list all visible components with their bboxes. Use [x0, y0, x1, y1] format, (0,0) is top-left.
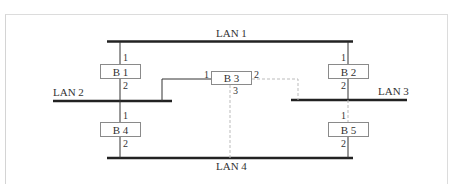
- b1-label: B 1: [113, 66, 129, 78]
- b3-port1-link: [162, 79, 211, 101]
- b3-port2-label: 2: [254, 69, 259, 80]
- lan2-label: LAN 2: [53, 86, 84, 98]
- b3-label: B 3: [224, 72, 240, 84]
- b2-port1-label: 1: [341, 52, 346, 63]
- b1-port1-label: 1: [123, 52, 128, 63]
- b3-port2-link: [252, 79, 298, 100]
- b4-label: B 4: [113, 124, 129, 136]
- b2-label: B 2: [341, 66, 357, 78]
- b3-port3-label: 3: [233, 85, 238, 96]
- b5-port1-label: 1: [341, 110, 346, 121]
- b4-port1-label: 1: [123, 110, 128, 121]
- bridge-b3: B 3 1 2 3: [204, 69, 259, 96]
- b1-port2-label: 2: [123, 80, 128, 91]
- b4-port2-label: 2: [123, 138, 128, 149]
- lan4-label: LAN 4: [216, 160, 247, 172]
- b2-port2-label: 2: [341, 80, 346, 91]
- b5-port2-label: 2: [341, 138, 346, 149]
- lan1-label: LAN 1: [216, 27, 247, 39]
- b3-port1-label: 1: [204, 69, 209, 80]
- lan3-label: LAN 3: [378, 85, 409, 97]
- bridge-topology-diagram: LAN 1 LAN 2 LAN 3 LAN 4 B 1 1 2 B 2 1 2 …: [0, 0, 458, 185]
- b5-label: B 5: [341, 124, 357, 136]
